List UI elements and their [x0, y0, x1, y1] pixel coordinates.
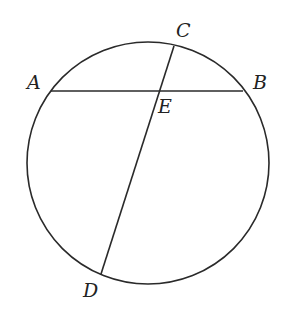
- label-c: C: [176, 19, 191, 41]
- label-a: A: [25, 71, 41, 93]
- circle-chord-diagram: A B C E D: [0, 0, 284, 312]
- chord-cd: [101, 46, 174, 274]
- label-d: D: [82, 279, 98, 301]
- label-e: E: [157, 95, 172, 117]
- label-b: B: [252, 71, 267, 93]
- circle: [27, 42, 269, 284]
